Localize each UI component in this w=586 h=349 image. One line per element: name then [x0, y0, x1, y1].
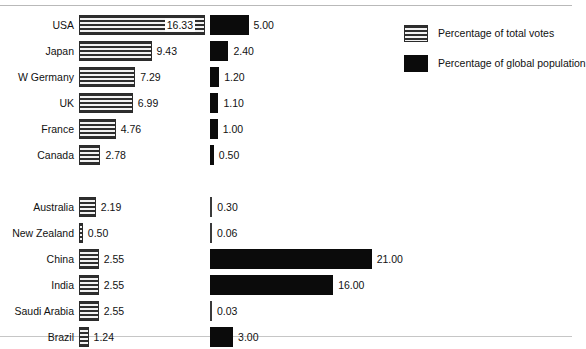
votes-value-label: 2.19: [101, 202, 121, 213]
category-label: W Germany: [0, 64, 74, 90]
category-label: China: [0, 246, 74, 272]
chart-row: Brazil1.243.00: [0, 324, 572, 349]
population-value-label: 21.00: [377, 254, 403, 265]
category-label: France: [0, 116, 74, 142]
votes-value-label: 9.43: [157, 46, 177, 57]
population-value-label: 1.10: [223, 98, 243, 109]
population-value-label: 3.00: [238, 332, 258, 343]
population-value-label: 1.20: [224, 72, 244, 83]
category-label: UK: [0, 90, 74, 116]
votes-bar: [79, 93, 133, 113]
votes-bar: [79, 249, 99, 269]
chart-row: China2.5521.00: [0, 246, 572, 272]
votes-value-label: 4.76: [121, 124, 141, 135]
population-value-label: 5.00: [254, 20, 274, 31]
votes-bar: [79, 119, 116, 139]
chart-row: Australia2.190.30: [0, 194, 572, 220]
population-value-label: 2.40: [233, 46, 253, 57]
category-label: New Zealand: [0, 220, 74, 246]
population-bar: [210, 119, 218, 139]
population-bar: [210, 249, 372, 269]
population-value-label: 0.30: [217, 202, 237, 213]
votes-value-label: 7.29: [140, 72, 160, 83]
chart-row: Canada2.780.50: [0, 142, 572, 168]
population-value-label: 0.50: [219, 150, 239, 161]
population-bar: [210, 145, 214, 165]
population-bar: [210, 41, 228, 61]
population-bar: [210, 15, 249, 35]
category-label: Canada: [0, 142, 74, 168]
population-bar: [210, 275, 333, 295]
category-label: Japan: [0, 38, 74, 64]
population-value-label: 0.03: [217, 306, 237, 317]
legend-swatch-votes-icon: [404, 25, 428, 42]
votes-bar: [79, 327, 89, 347]
votes-value-label: 0.50: [88, 228, 108, 239]
category-label: USA: [0, 12, 74, 38]
population-bar: [210, 93, 218, 113]
population-bar: [210, 67, 219, 87]
votes-bar: [79, 67, 135, 87]
legend-label: Percentage of global population: [438, 55, 586, 72]
category-label: Australia: [0, 194, 74, 220]
legend-label: Percentage of total votes: [438, 25, 554, 42]
population-bar: [210, 301, 212, 321]
chart-row: Saudi Arabia2.550.03: [0, 298, 572, 324]
chart-row: India2.5516.00: [0, 272, 572, 298]
population-bar: [210, 197, 212, 217]
votes-value-label: 2.55: [104, 280, 124, 291]
chart-row: New Zealand0.500.06: [0, 220, 572, 246]
votes-bar: [79, 223, 83, 243]
votes-bar: [79, 41, 152, 61]
top-rule: [0, 5, 572, 6]
votes-bar: [79, 301, 99, 321]
chart-row: France4.761.00: [0, 116, 572, 142]
population-bar: [210, 327, 233, 347]
population-value-label: 16.00: [338, 280, 364, 291]
votes-value-label: 16.33: [165, 19, 195, 32]
legend-swatch-population-icon: [404, 55, 428, 72]
population-value-label: 1.00: [223, 124, 243, 135]
votes-value-label: 1.24: [94, 332, 114, 343]
category-label: India: [0, 272, 74, 298]
votes-value-label: 6.99: [138, 98, 158, 109]
votes-value-label: 2.55: [104, 306, 124, 317]
chart-row: UK6.991.10: [0, 90, 572, 116]
votes-bar: [79, 145, 100, 165]
population-bar: [210, 223, 212, 243]
votes-bar: [79, 197, 96, 217]
category-label: Brazil: [0, 324, 74, 349]
votes-value-label: 2.55: [104, 254, 124, 265]
category-label: Saudi Arabia: [0, 298, 74, 324]
votes-bar: [79, 275, 99, 295]
votes-value-label: 2.78: [105, 150, 125, 161]
population-value-label: 0.06: [217, 228, 237, 239]
